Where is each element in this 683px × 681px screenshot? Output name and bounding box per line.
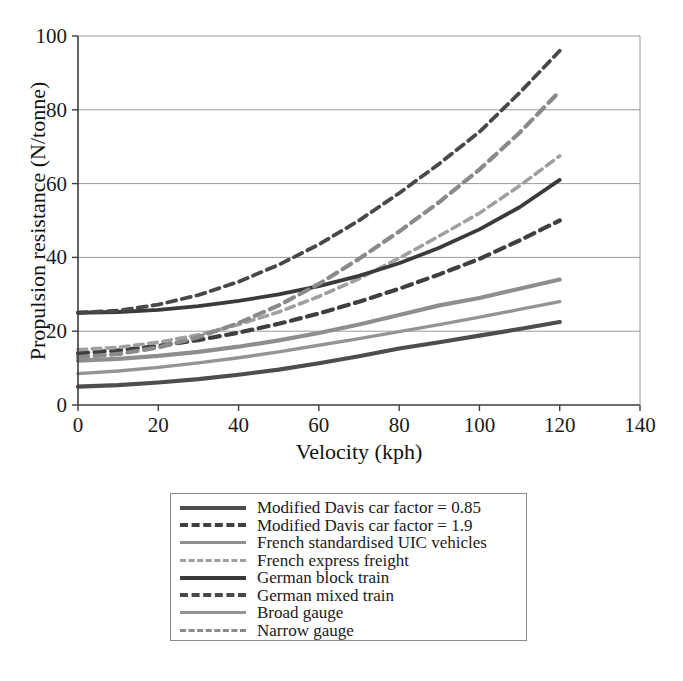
x-tick-labels: 020406080100120140 — [73, 413, 656, 437]
legend-item-label: French express freight — [257, 552, 409, 569]
plot-area: 020406080100120140 020406080100 Velocity… — [0, 0, 683, 470]
legend-item: Modified Davis car factor = 1.9 — [171, 517, 526, 535]
legend-item: French express freight — [171, 552, 526, 570]
x-tick-label: 40 — [228, 413, 249, 437]
x-tick-label: 20 — [148, 413, 169, 437]
legend-item: German block train — [171, 569, 526, 587]
data-series-group — [78, 51, 560, 387]
legend-line-swatch — [180, 559, 246, 562]
x-tick-label: 140 — [624, 413, 656, 437]
legend-item: French standardised UIC vehicles — [171, 534, 526, 552]
legend-item-label: Broad gauge — [257, 604, 343, 621]
y-tick-label: 100 — [36, 24, 68, 48]
x-tick-label: 80 — [389, 413, 410, 437]
x-tick-label: 120 — [544, 413, 576, 437]
legend-line-swatch — [180, 506, 246, 510]
x-tick-label: 100 — [464, 413, 496, 437]
x-tick-label: 60 — [308, 413, 329, 437]
x-tick-label: 0 — [73, 413, 84, 437]
legend-item: Narrow gauge — [171, 622, 526, 640]
series-line — [78, 156, 560, 350]
x-axis-title: Velocity (kph) — [296, 439, 422, 464]
legend-item-label: Narrow gauge — [257, 622, 354, 639]
legend-item: Modified Davis car factor = 0.85 — [171, 499, 526, 517]
legend-line-swatch — [180, 611, 246, 614]
legend-line-swatch — [180, 523, 246, 527]
legend-item-label: French standardised UIC vehicles — [257, 534, 487, 551]
legend-item-label: German block train — [257, 569, 389, 586]
series-line — [78, 180, 560, 313]
legend-item: Broad gauge — [171, 604, 526, 622]
y-axis-title: Propulsion resistance (N/tonne) — [25, 82, 50, 361]
legend-line-swatch — [180, 629, 246, 632]
propulsion-resistance-chart: 020406080100120140 020406080100 Velocity… — [0, 0, 683, 681]
legend-line-swatch — [180, 593, 246, 597]
chart-legend: Modified Davis car factor = 0.85Modified… — [170, 493, 527, 641]
legend-line-swatch — [180, 541, 246, 544]
legend-line-swatch — [180, 576, 246, 580]
legend-item-label: Modified Davis car factor = 1.9 — [257, 517, 472, 534]
legend-item: German mixed train — [171, 587, 526, 605]
y-tick-label: 0 — [57, 393, 68, 417]
series-line — [78, 51, 560, 313]
legend-item-label: Modified Davis car factor = 0.85 — [257, 499, 481, 516]
chart-svg: 020406080100120140 020406080100 Velocity… — [0, 0, 683, 470]
legend-item-label: German mixed train — [257, 587, 394, 604]
